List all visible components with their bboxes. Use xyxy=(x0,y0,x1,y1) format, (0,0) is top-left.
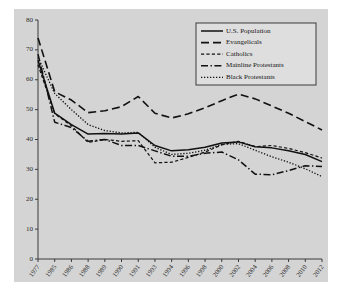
y-tick-label: 50 xyxy=(26,105,34,113)
legend-label: Evangelicals xyxy=(226,38,262,46)
y-axis: 01020304050607080 xyxy=(26,16,38,263)
y-tick-label: 40 xyxy=(26,135,34,143)
x-tick-label: 1989 xyxy=(94,263,108,278)
x-tick-label: 2004 xyxy=(244,263,258,278)
legend-label: Mainline Protestants xyxy=(226,61,284,69)
x-tick-label: 1991 xyxy=(127,263,141,278)
x-tick-label: 2000 xyxy=(211,263,225,278)
chart-figure: 01020304050607080 1977198519861988198919… xyxy=(0,0,341,298)
x-tick-label: 2012 xyxy=(311,263,325,278)
y-tick-label: 0 xyxy=(30,255,34,263)
x-tick-label: 1990 xyxy=(111,263,125,278)
y-tick-label: 60 xyxy=(26,75,34,83)
y-tick-label: 70 xyxy=(26,45,34,53)
x-tick-label: 1993 xyxy=(144,263,158,278)
x-tick-label: 1996 xyxy=(178,263,192,278)
x-tick-label: 1977 xyxy=(27,263,41,278)
x-tick-label: 2008 xyxy=(278,263,292,278)
x-tick-label: 2006 xyxy=(261,263,275,278)
x-tick-label: 1994 xyxy=(161,263,175,278)
y-tick-label: 20 xyxy=(26,195,34,203)
legend-label: U.S. Population xyxy=(226,27,271,35)
legend-label: Black Protestants xyxy=(226,73,275,81)
legend-label: Catholics xyxy=(226,50,253,58)
x-axis: 1977198519861988198919901991199319941996… xyxy=(27,259,325,278)
x-tick-label: 2002 xyxy=(228,263,242,278)
y-tick-label: 30 xyxy=(26,165,34,173)
y-tick-label: 80 xyxy=(26,16,34,24)
y-tick-label: 10 xyxy=(26,225,34,233)
line-chart: 01020304050607080 1977198519861988198919… xyxy=(0,0,341,298)
x-tick-label: 1998 xyxy=(194,263,208,278)
x-tick-label: 1985 xyxy=(44,263,58,278)
chart-legend: U.S. PopulationEvangelicalsCatholicsMain… xyxy=(196,23,316,85)
x-tick-label: 2010 xyxy=(294,263,308,278)
x-tick-label: 1988 xyxy=(77,263,91,278)
x-tick-label: 1986 xyxy=(61,263,75,278)
